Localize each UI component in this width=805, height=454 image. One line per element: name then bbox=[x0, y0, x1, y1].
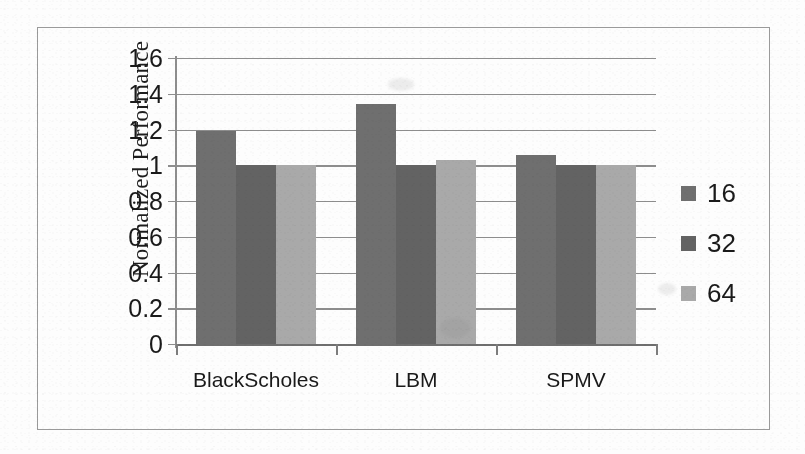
bar-spmv-64 bbox=[596, 165, 636, 344]
category-tick bbox=[176, 344, 178, 355]
scanned-page: Normalized Performance 00.20.40.60.811.2… bbox=[0, 0, 805, 454]
scan-smudge bbox=[658, 283, 676, 295]
bar-blackscholes-16 bbox=[196, 131, 236, 344]
y-axis-tick-label: 1.4 bbox=[128, 79, 163, 108]
bar-spmv-32 bbox=[556, 165, 596, 344]
legend-swatch-icon-16 bbox=[681, 186, 696, 201]
y-axis-tick-label: 1.2 bbox=[128, 115, 163, 144]
y-axis-tick-label: 0.2 bbox=[128, 294, 163, 323]
y-axis-tick-label: 0 bbox=[149, 330, 163, 359]
legend-swatch-icon-64 bbox=[681, 286, 696, 301]
y-axis-tick-label: 0.6 bbox=[128, 222, 163, 251]
category-tick bbox=[496, 344, 498, 355]
category-tick bbox=[336, 344, 338, 355]
plot-area: 00.20.40.60.811.21.41.6 BlackScholesLBMS… bbox=[176, 58, 656, 344]
category-label-lbm: LBM bbox=[394, 368, 437, 392]
y-axis-tick-label: 1.6 bbox=[128, 44, 163, 73]
y-axis-tick-label: 0.8 bbox=[128, 187, 163, 216]
x-axis-baseline bbox=[176, 344, 656, 346]
bar-lbm-32 bbox=[396, 165, 436, 344]
bar-lbm-16 bbox=[356, 104, 396, 344]
bar-blackscholes-32 bbox=[236, 165, 276, 344]
bar-spmv-16 bbox=[516, 155, 556, 344]
legend-label-64: 64 bbox=[707, 280, 736, 306]
legend-label-16: 16 bbox=[707, 180, 736, 206]
legend-item-64[interactable]: 64 bbox=[681, 268, 765, 318]
category-tick bbox=[656, 344, 658, 355]
category-label-spmv: SPMV bbox=[546, 368, 606, 392]
bar-lbm-64 bbox=[436, 160, 476, 344]
y-axis-tick-label: 1 bbox=[149, 151, 163, 180]
bar-series-group bbox=[176, 58, 656, 344]
bar-blackscholes-64 bbox=[276, 165, 316, 344]
legend-label-32: 32 bbox=[707, 230, 736, 256]
category-label-blackscholes: BlackScholes bbox=[193, 368, 319, 392]
chart-frame: Normalized Performance 00.20.40.60.811.2… bbox=[37, 27, 770, 430]
legend: 163264 bbox=[681, 168, 765, 318]
legend-item-16[interactable]: 16 bbox=[681, 168, 765, 218]
y-axis-tick-label: 0.4 bbox=[128, 258, 163, 287]
legend-swatch-icon-32 bbox=[681, 236, 696, 251]
legend-item-32[interactable]: 32 bbox=[681, 218, 765, 268]
